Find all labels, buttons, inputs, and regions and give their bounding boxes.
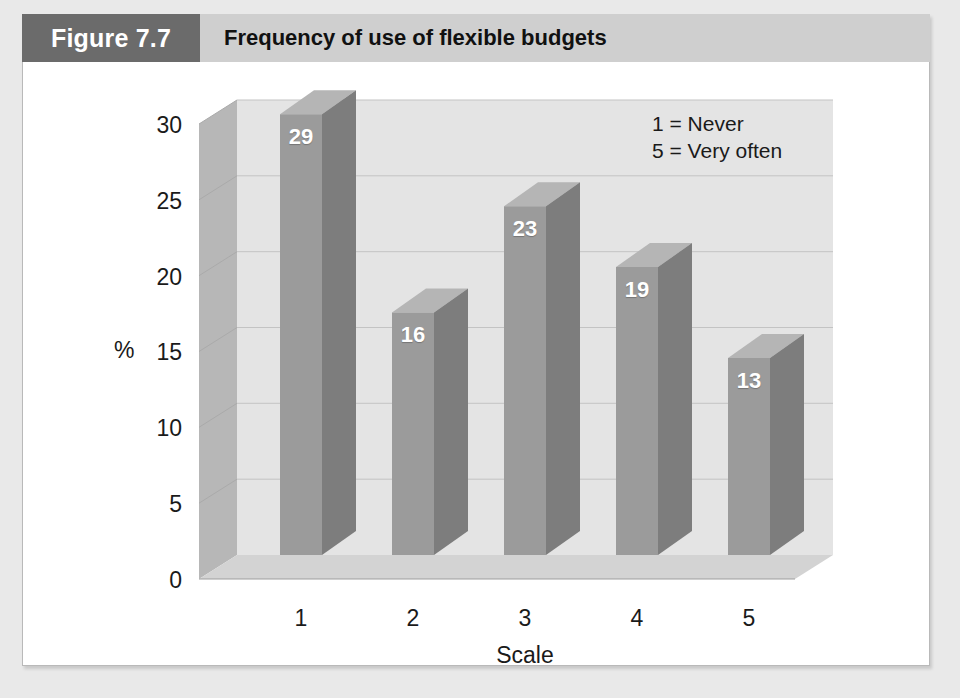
bar-value-label-1: 29 [270, 124, 332, 150]
x-axis-title: Scale [445, 642, 605, 666]
legend-line-never: 1 = Never [652, 110, 782, 137]
bar-value-label-5: 13 [718, 368, 780, 394]
chart-bar-2-front [392, 312, 434, 555]
y-tick-label-0: 0 [22, 567, 182, 594]
y-tick-label-25: 25 [22, 188, 182, 215]
figure-page: Figure 7.7 Frequency of use of flexible … [0, 0, 960, 698]
y-tick-label-10: 10 [22, 415, 182, 442]
figure-number-label: Figure 7.7 [51, 24, 171, 53]
chart-bar-3-front [504, 206, 546, 555]
legend-line-very-often: 5 = Very often [652, 137, 782, 164]
x-tick-label-5: 5 [709, 605, 789, 632]
chart-bar-1-side [322, 90, 356, 555]
chart-bar-1-front [280, 114, 322, 555]
x-tick-label-4: 4 [597, 605, 677, 632]
figure-number-block: Figure 7.7 [22, 14, 200, 62]
y-tick-label-15: 15 [22, 339, 182, 366]
chart-bar-1 [280, 90, 356, 555]
x-tick-label-3: 3 [485, 605, 565, 632]
figure-header: Figure 7.7 Frequency of use of flexible … [22, 14, 930, 62]
bar-value-label-4: 19 [606, 277, 668, 303]
y-tick-label-30: 30 [22, 112, 182, 139]
y-tick-label-20: 20 [22, 264, 182, 291]
y-tick-label-5: 5 [22, 491, 182, 518]
x-tick-label-1: 1 [261, 605, 341, 632]
chart-floor [199, 555, 833, 579]
chart-bar-4-front [616, 267, 658, 555]
bar-value-label-2: 16 [382, 322, 444, 348]
figure-title: Frequency of use of flexible budgets [224, 14, 607, 62]
y-axis-title: % [114, 337, 134, 364]
chart-plot-area: 0 5 10 15 20 25 30 % 1 2 3 4 5 Scale 29 … [22, 62, 930, 666]
chart-legend: 1 = Never 5 = Very often [652, 110, 782, 164]
bar-value-label-3: 23 [494, 216, 556, 242]
x-tick-label-2: 2 [373, 605, 453, 632]
